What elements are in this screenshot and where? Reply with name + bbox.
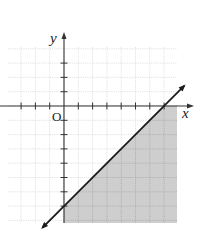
y-axis-label: y [48,30,57,46]
origin-label: O [52,109,61,124]
shaded-region [64,106,177,223]
y-axis-arrow-icon [62,32,67,39]
coordinate-graph: x y O [0,0,205,234]
x-axis-label: x [181,105,189,121]
